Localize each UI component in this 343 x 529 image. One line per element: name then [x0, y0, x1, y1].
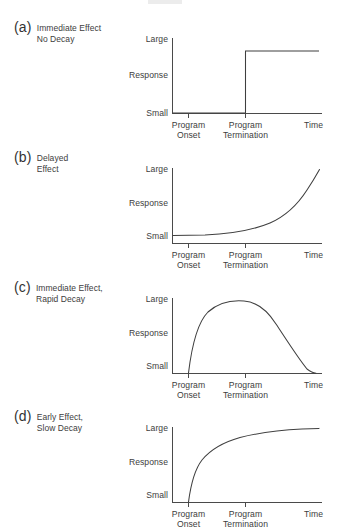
panel-c-caption-line-1: Immediate Effect,: [36, 283, 103, 294]
panel-c-caption-line-2: Rapid Decay: [36, 294, 103, 305]
panel-b-label-termination-line2: Termination: [223, 260, 268, 268]
panel-a-letter: (a): [14, 20, 32, 34]
scan-artifact: [148, 0, 182, 4]
panel-b-chart: Large Small Response Program Onset Progr…: [110, 144, 343, 268]
panel-a-label-termination-line1: Program: [229, 120, 262, 130]
panel-c-label-time: Time: [304, 380, 323, 390]
panel-c-label-small: Small: [146, 361, 168, 371]
panel-d-letter: (d): [14, 409, 32, 423]
panel-a-label-small: Small: [146, 108, 168, 118]
panel-d-label-onset-line1: Program: [172, 509, 205, 519]
panel-b-caption-line-1: Delayed: [37, 153, 69, 164]
panel-a-caption-line-2: No Decay: [37, 34, 101, 45]
panel-b-label-termination-line1: Program: [229, 250, 262, 260]
panel-b-label-small: Small: [146, 231, 168, 241]
panel-a-label-termination-line2: Termination: [223, 130, 268, 138]
panel-a-caption-lines: Immediate Effect No Decay: [37, 20, 101, 44]
panel-a: (a) Immediate Effect No Decay Large Smal…: [0, 8, 343, 138]
panel-a-label-large: Large: [146, 34, 168, 44]
panel-c-label-large: Large: [146, 294, 168, 304]
panel-d: (d) Early Effect, Slow Decay Large Small…: [0, 397, 343, 527]
panel-b-label-onset-line1: Program: [172, 250, 205, 260]
panel-b-letter: (b): [14, 150, 32, 164]
panel-d-chart: Large Small Response Program Onset Progr…: [110, 403, 343, 527]
panel-c-label-response: Response: [129, 328, 168, 338]
panel-d-caption-line-1: Early Effect,: [37, 412, 83, 423]
panel-c-letter: (c): [14, 280, 31, 294]
panel-b-curve: [173, 170, 320, 236]
panel-d-label-termination-line1: Program: [229, 509, 262, 519]
figure-program-effect-response-patterns: (a) Immediate Effect No Decay Large Smal…: [0, 0, 343, 529]
panel-b-label-response: Response: [129, 198, 168, 208]
panel-a-curve: [173, 51, 319, 113]
panel-c-label-termination-line1: Program: [229, 380, 262, 390]
panel-c-label-onset-line1: Program: [172, 380, 205, 390]
panel-b-axes: [173, 168, 323, 244]
panel-c: (c) Immediate Effect, Rapid Decay Large …: [0, 268, 343, 398]
panel-c-caption-lines: Immediate Effect, Rapid Decay: [36, 280, 103, 304]
panel-a-axes: [173, 38, 323, 114]
panel-a-label-response: Response: [129, 70, 168, 80]
panel-d-caption-line-2: Slow Decay: [37, 423, 83, 434]
panel-b-label-time: Time: [304, 250, 323, 260]
panel-d-label-time: Time: [304, 509, 323, 519]
panel-d-axes: [173, 427, 323, 503]
panel-d-label-termination-line2: Termination: [223, 519, 268, 527]
panel-b-caption-line-2: Effect: [37, 164, 69, 175]
panel-d-curve: [189, 428, 320, 502]
panel-b-label-large: Large: [146, 164, 168, 174]
panel-d-label-response: Response: [129, 457, 168, 467]
panel-d-label-large: Large: [146, 423, 168, 433]
panel-a-label-onset-line2: Onset: [177, 130, 201, 138]
panel-c-axes: [173, 298, 323, 374]
panel-d-label-onset-line2: Onset: [177, 519, 201, 527]
panel-a-caption-line-1: Immediate Effect: [37, 23, 101, 34]
panel-d-label-small: Small: [146, 490, 168, 500]
panel-d-caption-lines: Early Effect, Slow Decay: [37, 409, 83, 433]
panel-a-label-onset-line1: Program: [172, 120, 205, 130]
panel-c-curve: [189, 301, 317, 373]
panel-c-chart: Large Small Response Program Onset Progr…: [110, 274, 343, 398]
panel-b: (b) Delayed Effect Large Small Response …: [0, 138, 343, 268]
panel-b-label-onset-line2: Onset: [177, 260, 201, 268]
panel-b-caption-lines: Delayed Effect: [37, 150, 69, 174]
panel-a-chart: Large Small Response Program Onset Progr…: [110, 14, 343, 138]
panel-a-label-time: Time: [304, 120, 323, 130]
